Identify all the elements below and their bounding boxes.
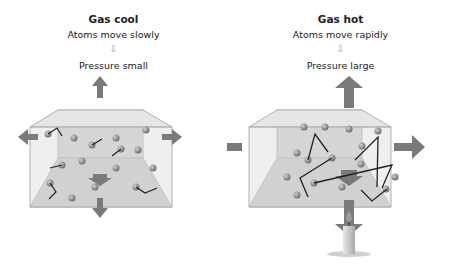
cool-gas-box-diagram	[0, 0, 227, 265]
cool-gas-panel: Gas cool Atoms move slowly ⇩ Pressure sm…	[0, 0, 227, 265]
hot-gas-panel: Gas hot Atoms move rapidly ⇩ Pressure la…	[227, 0, 454, 265]
candle-icon	[327, 211, 371, 257]
hot-gas-box-diagram	[227, 0, 454, 265]
